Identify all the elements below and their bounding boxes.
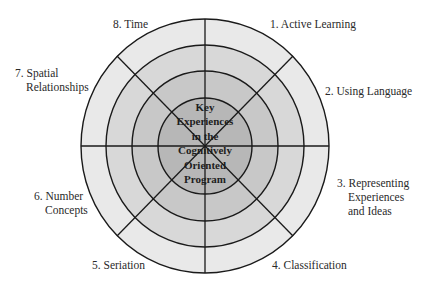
label-text: 2. Using Language — [325, 85, 412, 97]
center-title: Key Experiences in the Cognitively Orien… — [164, 100, 246, 186]
label-text: Experiences — [337, 190, 409, 204]
label-active-learning: 1. Active Learning — [270, 17, 356, 31]
center-line: Experiences — [164, 114, 246, 128]
label-spatial-relationships: 7. Spatial Relationships — [15, 66, 89, 94]
center-line: Cognitively — [164, 143, 246, 157]
label-time: 8. Time — [113, 17, 148, 31]
label-text: 1. Active Learning — [270, 18, 356, 30]
label-number-concepts: 6. Number Concepts — [34, 189, 88, 217]
label-text: 4. Classification — [272, 259, 347, 271]
label-text: 6. Number — [34, 190, 83, 202]
center-line: Oriented — [164, 158, 246, 172]
center-line: Key — [164, 100, 246, 114]
label-representing-experiences: 3. Representing Experiences and Ideas — [337, 176, 409, 218]
label-text: 8. Time — [113, 18, 148, 30]
center-line: in the — [164, 129, 246, 143]
label-text: Concepts — [34, 203, 88, 217]
label-text: and Ideas — [337, 204, 409, 218]
label-using-language: 2. Using Language — [325, 84, 412, 98]
label-text: 5. Seriation — [92, 259, 145, 271]
label-seriation: 5. Seriation — [92, 258, 145, 272]
label-text: 3. Representing — [337, 177, 409, 189]
center-line: Program — [164, 172, 246, 186]
label-text: Relationships — [15, 80, 89, 94]
label-text: 7. Spatial — [15, 67, 58, 79]
label-classification: 4. Classification — [272, 258, 347, 272]
